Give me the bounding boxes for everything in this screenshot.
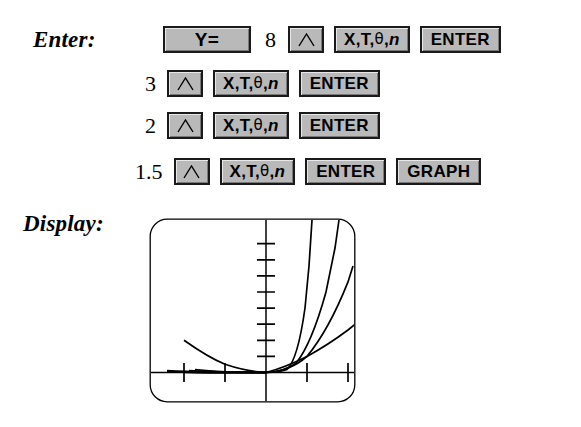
keystroke-row-4: 1.5 X,T,θ,n ENTER GRAPH: [133, 158, 486, 185]
exponent-value-row-1: 8: [256, 29, 283, 51]
keystroke-row-3: 2 X,T,θ,n ENTER: [143, 112, 385, 139]
key-y-equals[interactable]: Y=: [163, 26, 251, 53]
exponent-value-row-4: 1.5: [133, 161, 169, 183]
key-xt-prefix: X,T,: [223, 75, 254, 92]
key-theta-glyph: θ: [254, 118, 263, 133]
key-x-t-theta-n[interactable]: X,T,θ,n: [213, 112, 289, 139]
key-enter[interactable]: ENTER: [299, 112, 380, 139]
key-graph[interactable]: GRAPH: [396, 158, 481, 185]
key-caret-exponent[interactable]: [174, 158, 210, 185]
exponent-value-row-2: 3: [143, 73, 162, 95]
key-x-t-theta-n[interactable]: X,T,θ,n: [213, 70, 289, 97]
key-caret-exponent[interactable]: [167, 112, 203, 139]
screen-bezel: [150, 219, 355, 402]
keystroke-row-1: Y= 8 X,T,θ,n ENTER: [163, 26, 506, 53]
key-theta-glyph: θ: [375, 32, 384, 47]
exponent-value-row-3: 2: [143, 115, 162, 137]
key-theta-glyph: θ: [254, 76, 263, 91]
caret-exponent-icon: [298, 33, 315, 47]
caret-exponent-icon: [177, 119, 194, 133]
key-xt-n: n: [389, 31, 400, 48]
key-xt-prefix: X,T,: [223, 117, 254, 134]
caret-exponent-icon: [177, 77, 194, 91]
curve-overlap-left: [167, 371, 266, 373]
key-xt-n: n: [268, 117, 279, 134]
key-enter[interactable]: ENTER: [299, 70, 380, 97]
key-theta-glyph: θ: [260, 164, 269, 179]
graph-canvas: [149, 218, 356, 403]
key-enter[interactable]: ENTER: [420, 26, 501, 53]
enter-label: Enter:: [33, 27, 96, 53]
keystroke-row-2: 3 X,T,θ,n ENTER: [143, 70, 385, 97]
key-xt-n: n: [275, 163, 286, 180]
caret-exponent-icon: [183, 165, 200, 179]
key-xt-prefix: X,T,: [230, 163, 261, 180]
key-x-t-theta-n[interactable]: X,T,θ,n: [334, 26, 410, 53]
key-xt-n: n: [268, 75, 279, 92]
display-label: Display:: [23, 211, 104, 237]
key-caret-exponent[interactable]: [288, 26, 324, 53]
key-xt-prefix: X,T,: [344, 31, 375, 48]
key-x-t-theta-n[interactable]: X,T,θ,n: [220, 158, 296, 185]
key-enter[interactable]: ENTER: [305, 158, 386, 185]
calculator-display-screen: [149, 218, 356, 403]
key-caret-exponent[interactable]: [167, 70, 203, 97]
